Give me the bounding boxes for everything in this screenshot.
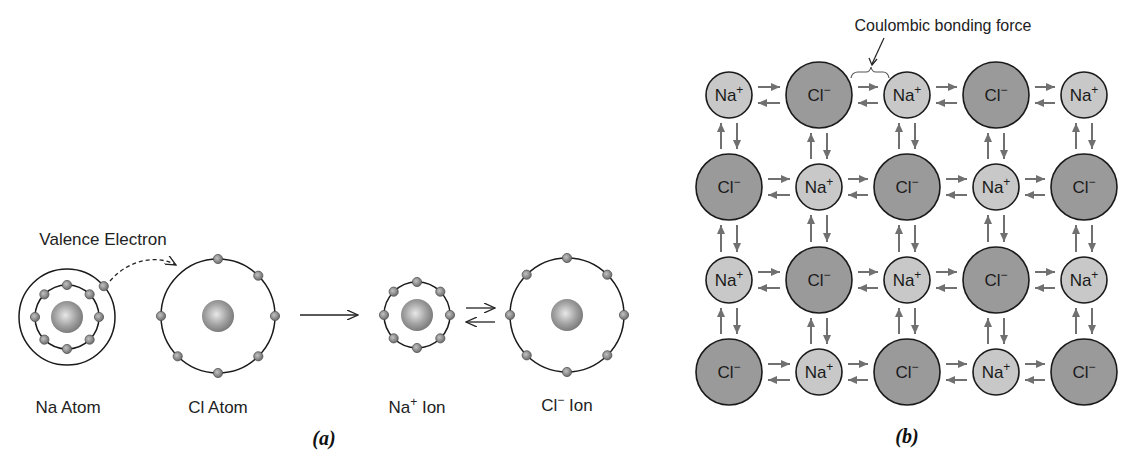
electron [522, 270, 531, 279]
cl-ion: Cl− [786, 62, 852, 128]
coulombic-force-label: Coulombic bonding force [855, 17, 1032, 34]
nucleus [202, 300, 234, 332]
cl-ion: Cl− [1051, 154, 1117, 220]
na-ion: Na+ [706, 257, 752, 303]
electron [603, 351, 612, 360]
cl-atom-label: Cl Atom [188, 398, 248, 417]
na-ion: Na+ [796, 164, 842, 210]
electron [270, 311, 279, 320]
valence-electron-label: Valence Electron [39, 230, 166, 249]
nucleus [51, 301, 83, 333]
na-atom-label: Na Atom [35, 398, 100, 417]
electron [603, 270, 612, 279]
na-ion-label: Na+ Ion [388, 395, 445, 417]
na-ion: Na+ [884, 72, 930, 118]
cl-ion: Cl− [786, 247, 852, 313]
electron [40, 290, 49, 299]
nucleus [401, 299, 433, 331]
electron [619, 310, 628, 319]
panel-a-caption: (a) [312, 427, 335, 450]
bonding-pointer-line [872, 38, 884, 64]
ionic-bonding-figure: Valence Electron Na Atom Cl Atom Na+ Ion… [0, 0, 1137, 465]
electron [85, 290, 94, 299]
na-ion: Na+ [1061, 257, 1107, 303]
cl-ion: Cl− [874, 154, 940, 220]
electron [85, 335, 94, 344]
electron [62, 344, 71, 353]
na-ion: Na+ [796, 349, 842, 395]
electron [436, 287, 445, 296]
cl-ion: Cl− [1051, 339, 1117, 405]
electron [379, 310, 388, 319]
cl-atom-model [156, 254, 279, 377]
nacl-lattice: Na+Cl−Na+Cl−Na+Cl−Na+Cl−Na+Cl−Na+Cl−Na+C… [696, 62, 1117, 405]
electron [62, 280, 71, 289]
electron [505, 310, 514, 319]
electron [562, 253, 571, 262]
electron [99, 282, 108, 291]
na-ion-model [379, 277, 454, 352]
cl-ion: Cl− [963, 247, 1029, 313]
electron [156, 311, 165, 320]
cl-ion: Cl− [874, 339, 940, 405]
electron [254, 352, 263, 361]
lattice-force-arrows [721, 87, 1092, 380]
electron [254, 271, 263, 280]
electron [213, 254, 222, 263]
na-atom-model [19, 269, 115, 365]
cl-ion: Cl− [963, 62, 1029, 128]
electron [389, 334, 398, 343]
na-ion: Na+ [973, 349, 1019, 395]
electron [522, 351, 531, 360]
electron [213, 368, 222, 377]
na-ion: Na+ [1061, 72, 1107, 118]
panel-b-caption: (b) [895, 425, 918, 448]
electron [562, 367, 571, 376]
cl-ion: Cl− [696, 154, 762, 220]
electron [445, 310, 454, 319]
na-ion: Na+ [973, 164, 1019, 210]
cl-ion-label: Cl− Ion [541, 393, 592, 415]
na-ion: Na+ [706, 72, 752, 118]
cl-ion-model [505, 253, 628, 376]
nucleus [551, 299, 583, 331]
cl-ion: Cl− [696, 339, 762, 405]
electron [436, 334, 445, 343]
panel-a-annotations: Valence Electron Na Atom Cl Atom Na+ Ion… [35, 230, 592, 450]
electron [30, 312, 39, 321]
electron [173, 352, 182, 361]
electron [412, 277, 421, 286]
na-ion: Na+ [884, 257, 930, 303]
electron [94, 312, 103, 321]
electron [40, 335, 49, 344]
electron-transfer-dashed-arrow [110, 260, 176, 281]
electron [389, 287, 398, 296]
bonding-bracket [851, 67, 889, 78]
electron [412, 343, 421, 352]
